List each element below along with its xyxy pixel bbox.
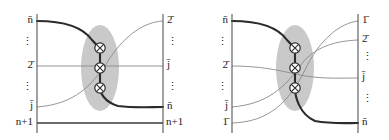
right-label-2: ⋮ xyxy=(362,51,389,62)
crossing-node-1 xyxy=(95,43,105,53)
right-label-5: n+1 xyxy=(166,116,195,127)
right-label-3: ⋮ xyxy=(167,81,195,92)
left-label-0: n̄ xyxy=(4,14,33,25)
right-label-4: n̄ xyxy=(167,100,195,111)
crossing-node-2 xyxy=(290,63,300,73)
right-label-3: j̄ xyxy=(362,71,389,82)
crossing-node-2 xyxy=(95,63,105,73)
crossing-node-3 xyxy=(290,83,300,93)
right-label-4: ⋮ xyxy=(362,93,389,104)
left-label-1: ⋮ xyxy=(4,36,33,47)
crossing-node-1 xyxy=(290,43,300,53)
left-label-2: 2̄ xyxy=(199,59,228,70)
right-label-1: 2̄ xyxy=(362,33,389,44)
left-label-4: j̄ xyxy=(199,100,228,111)
left-label-5: n+1 xyxy=(0,116,33,127)
right-label-2: j̄ xyxy=(167,59,195,70)
left-label-1: ⋮ xyxy=(199,36,228,47)
left-label-4: j̄ xyxy=(4,100,33,111)
right-label-5: n̄ xyxy=(362,116,389,127)
left-diagram-panel: n̄ ⋮ 2̄ ⋮ j̄ n+1 2̄ ⋮ j̄ ⋮ n̄ n+1 xyxy=(0,0,195,140)
left-label-0: n̄ xyxy=(199,14,228,25)
left-label-2: 2̄ xyxy=(4,59,33,70)
right-label-1: ⋮ xyxy=(167,36,195,47)
braid-diagram-figure: n̄ ⋮ 2̄ ⋮ j̄ n+1 2̄ ⋮ j̄ ⋮ n̄ n+1 xyxy=(0,0,389,140)
right-diagram-panel: n̄ ⋮ 2̄ ⋮ j̄ 1̄ 1̄ 2̄ ⋮ j̄ ⋮ n̄ xyxy=(195,0,389,140)
right-label-0: 2̄ xyxy=(167,14,195,25)
left-label-3: ⋮ xyxy=(4,81,33,92)
left-label-5: 1̄ xyxy=(199,116,228,127)
left-label-3: ⋮ xyxy=(199,81,228,92)
right-label-0: 1̄ xyxy=(362,14,389,25)
crossing-node-3 xyxy=(95,83,105,93)
